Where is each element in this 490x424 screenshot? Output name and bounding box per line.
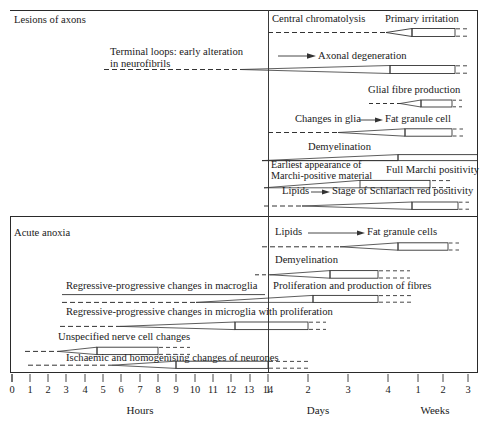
axis-tick-hours-6: 6	[112, 384, 130, 395]
axis-tick-weeks-1: 1	[409, 384, 427, 395]
band-glial-fibre-production	[0, 97, 490, 110]
row-label-unspecified-nerve-cell: Unspecified nerve cell changes	[58, 331, 190, 342]
axis-tick-hours-11: 11	[204, 384, 222, 395]
row-label-primary-irritation: Primary irritation	[385, 13, 459, 24]
axis-tick-days-1: 1	[259, 384, 277, 395]
row-label-proliferation-fibres: Proliferation and production of fibres	[273, 280, 431, 291]
axis-ticks	[0, 372, 490, 384]
axis-tick-hours-1: 1	[21, 384, 39, 395]
axis-tick-hours-0: 0	[3, 384, 21, 395]
row-label-microglia: Regressive-progressive changes in microg…	[66, 306, 333, 317]
band-axonal-degeneration	[0, 63, 490, 76]
frame-section-divider	[10, 216, 478, 217]
arrow-lipids-to-fat-granule-cells	[0, 226, 490, 239]
row-label-central-chromatolysis: Central chromatolysis	[272, 13, 365, 24]
band-fat-granule-cells	[0, 240, 490, 253]
axis-tick-weeks-2: 2	[434, 384, 452, 395]
row-label-glial-fibre-production: Glial fibre production	[368, 84, 460, 95]
axis-tick-days-2: 2	[299, 384, 317, 395]
axis-tick-weeks-3: 3	[459, 384, 477, 395]
arrow-changes-in-glia-to-fat-granule-cell	[0, 113, 490, 126]
band-primary-irritation	[0, 26, 490, 39]
band-schlarlach	[0, 199, 490, 212]
axis-tick-hours-13: 13	[240, 384, 258, 395]
row-label-macroglia: Regressive-progressive changes in macrog…	[66, 280, 258, 291]
row-label-earliest-marchi-line1: Earliest appearance of	[271, 159, 362, 170]
arrow-lipids-to-schlarlach	[0, 185, 490, 198]
frame-top-border	[10, 10, 478, 11]
row-label-demyelination: Demyelination	[308, 141, 371, 152]
axis-tick-hours-5: 5	[94, 384, 112, 395]
axis-unit-days: Days	[288, 404, 348, 416]
axis-tick-hours-3: 3	[57, 384, 75, 395]
axis-tick-hours-10: 10	[186, 384, 204, 395]
band-fat-granule-cell	[0, 126, 490, 139]
axis-unit-weeks: Weeks	[405, 404, 465, 416]
axis-tick-hours-4: 4	[76, 384, 94, 395]
row-label-full-marchi-positivity: Full Marchi positivity	[386, 164, 479, 175]
row-label-demyelination-anoxia: Demyelination	[275, 254, 338, 265]
timeline-figure: Lesions of axons Central chromatolysis P…	[0, 0, 490, 424]
axis-unit-hours: Hours	[100, 404, 180, 416]
axis-tick-hours-9: 9	[167, 384, 185, 395]
arrow-to-axonal-degeneration	[0, 50, 490, 63]
section-title-lesions-of-axons: Lesions of axons	[14, 14, 86, 25]
band-proliferation-fibres	[0, 293, 490, 306]
axis-tick-hours-12: 12	[222, 384, 240, 395]
axis-tick-hours-7: 7	[131, 384, 149, 395]
axis-tick-hours-8: 8	[149, 384, 167, 395]
axis-tick-days-3: 3	[339, 384, 357, 395]
axis-tick-hours-2: 2	[39, 384, 57, 395]
axis-tick-days-4: 4	[379, 384, 397, 395]
